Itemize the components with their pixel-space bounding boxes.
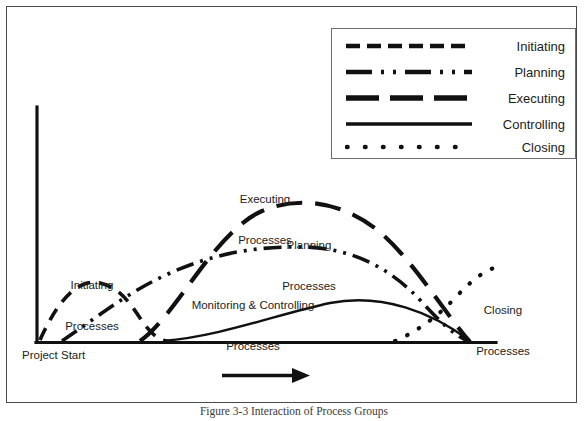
legend-item-initiating[interactable]: Initiating [332, 33, 577, 59]
legend-label: Executing [473, 91, 577, 106]
figure-caption-text: Figure 3-3 Interaction of Process Groups [200, 406, 388, 417]
dash-dot-dot-sample-icon [345, 62, 473, 82]
figure-root: Initiating Processes Executing Processes… [0, 0, 588, 421]
label-line: Initiating [52, 279, 132, 293]
long-dash-sample-icon [345, 88, 473, 108]
project-start-label: Project Start [22, 349, 142, 363]
closing-processes-label: Closing Processes [465, 277, 541, 385]
label-line: Monitoring & Controlling [178, 299, 328, 313]
label-line: Closing [465, 304, 541, 318]
dot-sample-icon [345, 137, 473, 157]
initiating-processes-label: Initiating Processes [52, 252, 132, 360]
dash-sample-icon [345, 36, 473, 56]
legend-label: Closing [473, 140, 577, 155]
legend-label: Controlling [473, 117, 577, 132]
label-line: Processes [465, 345, 541, 359]
label-part: Controlling [259, 299, 314, 311]
label-line: Planning [268, 239, 350, 253]
legend-item-closing[interactable]: Closing [332, 134, 577, 160]
legend-item-executing[interactable]: Executing [332, 85, 577, 111]
label-part: Monitoring & [192, 299, 257, 311]
monitoring-controlling-label: Monitoring & Controlling Processes [178, 272, 328, 380]
label-line: Processes [52, 320, 132, 334]
legend-item-planning[interactable]: Planning [332, 59, 577, 85]
solid-sample-icon [345, 114, 473, 134]
label-line: Executing [222, 193, 308, 207]
legend-label: Initiating [473, 39, 577, 54]
legend-label: Planning [473, 65, 577, 80]
legend: Initiating Planning Executing [331, 28, 576, 159]
label-line: Processes [178, 340, 328, 354]
figure-caption: Figure 3-3 Interaction of Process Groups [0, 406, 588, 421]
